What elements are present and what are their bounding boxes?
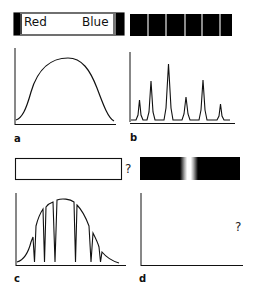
question-mark-d: ? [235,220,241,234]
panel-label-d: d [139,273,146,284]
panel-d-graphics [0,0,256,295]
